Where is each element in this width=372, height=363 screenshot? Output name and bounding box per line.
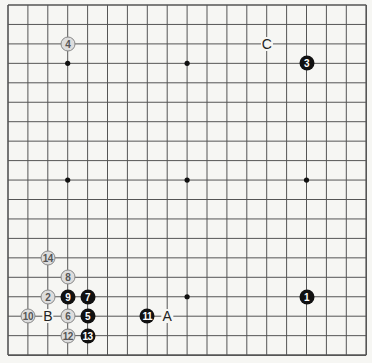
black-stone-move-13: 13 — [80, 328, 95, 343]
white-stone-move-10: 10 — [20, 309, 35, 324]
board-grid — [0, 0, 372, 363]
black-stone-move-11: 11 — [140, 309, 155, 324]
point-label-c: C — [261, 37, 273, 51]
black-stone-move-3: 3 — [299, 56, 314, 71]
white-stone-move-12: 12 — [60, 328, 75, 343]
white-stone-move-14: 14 — [40, 250, 55, 265]
hoshi-point — [304, 177, 309, 182]
hoshi-point — [185, 177, 190, 182]
point-label-a: A — [162, 309, 173, 323]
hoshi-point — [65, 61, 70, 66]
hoshi-point — [185, 294, 190, 299]
point-label-b: B — [42, 309, 53, 323]
white-stone-move-6: 6 — [60, 309, 75, 324]
white-stone-move-8: 8 — [60, 270, 75, 285]
black-stone-move-5: 5 — [80, 309, 95, 324]
black-stone-move-1: 1 — [299, 289, 314, 304]
hoshi-point — [65, 177, 70, 182]
hoshi-point — [185, 61, 190, 66]
black-stone-move-9: 9 — [60, 289, 75, 304]
go-board: 1234567891011121314ABC — [0, 0, 372, 363]
white-stone-move-4: 4 — [60, 36, 75, 51]
black-stone-move-7: 7 — [80, 289, 95, 304]
white-stone-move-2: 2 — [40, 289, 55, 304]
